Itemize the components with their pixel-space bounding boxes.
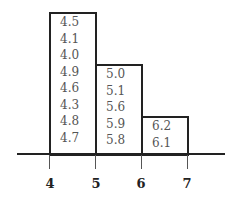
- tick-4: [49, 155, 50, 169]
- tick-5: [95, 155, 96, 169]
- tick-7: [187, 155, 188, 169]
- histogram-chart: 4.5 4.1 4.0 4.9 4.6 4.3 4.8 4.7 5.0 5.1 …: [0, 0, 236, 203]
- bar-values-5-6: 5.0 5.1 5.6 5.9 5.8: [106, 66, 125, 149]
- tick-label-5: 5: [91, 176, 100, 191]
- tick-6: [141, 155, 142, 169]
- bar-values-4-5: 4.5 4.1 4.0 4.9 4.6 4.3 4.8 4.7: [60, 14, 79, 146]
- tick-label-7: 7: [182, 176, 191, 191]
- tick-label-6: 6: [136, 176, 145, 191]
- bar-values-6-7: 6.2 6.1: [152, 118, 171, 151]
- tick-label-4: 4: [45, 176, 54, 191]
